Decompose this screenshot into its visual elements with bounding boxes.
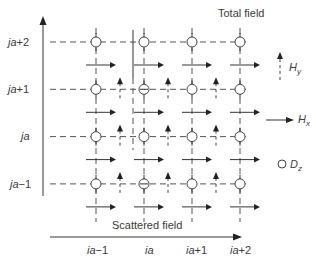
x-label-ia-plus-1: ia+1 — [186, 244, 207, 256]
hx-arrow-icon — [158, 62, 164, 68]
hx-arrow-icon — [254, 109, 260, 115]
dz-node-circle — [91, 132, 101, 142]
dz-node-circle — [235, 84, 245, 94]
legend-item-hy: Hy — [277, 52, 302, 80]
hx-arrow-icon — [110, 157, 116, 163]
legend-label-dz: Dz — [290, 158, 302, 173]
dz-node-circle — [235, 37, 245, 47]
field-components-layer — [86, 33, 260, 210]
hx-arrow-icon — [254, 62, 260, 68]
dz-circle-icon — [278, 160, 286, 168]
y-label-ja-plus-1: ja+1 — [6, 83, 29, 95]
dz-node-circle — [235, 132, 245, 142]
hx-arrow-icon — [110, 204, 116, 210]
dz-node-circle — [91, 179, 101, 189]
dz-node-circle — [187, 132, 197, 142]
y-axis-arrow-icon — [40, 16, 47, 25]
y-label-ja-plus-2: ja+2 — [6, 36, 29, 48]
hy-arrow-icon — [117, 77, 123, 84]
legend-label-hx: Hx — [298, 113, 311, 128]
x-axis-arrow-icon — [233, 234, 242, 241]
hx-arrow-icon — [206, 157, 212, 163]
hx-arrow-icon — [206, 62, 212, 68]
hx-arrow-icon — [110, 62, 116, 68]
dz-node-circle — [139, 37, 149, 47]
grid-layer — [50, 28, 250, 222]
hx-arrow-icon — [286, 117, 294, 123]
y-label-ja-minus-1: ja−1 — [8, 178, 31, 190]
hx-arrow-icon — [158, 109, 164, 115]
hy-arrow-icon — [213, 77, 219, 84]
hy-arrow-icon — [213, 125, 219, 132]
legend-item-dz: Dz — [278, 158, 302, 173]
hx-arrow-icon — [254, 157, 260, 163]
legend-label-hy: Hy — [289, 61, 302, 76]
x-label-ia-plus-2: ia+2 — [230, 244, 251, 256]
hy-arrow-icon — [117, 125, 123, 132]
hy-arrow-icon — [165, 77, 171, 84]
x-label-ia-minus-1: ia−1 — [87, 244, 108, 256]
hx-arrow-icon — [254, 204, 260, 210]
hy-arrow-icon — [277, 52, 283, 59]
x-axis — [50, 234, 242, 241]
dz-node-circle — [91, 84, 101, 94]
y-label-ja: ja — [19, 130, 30, 142]
legend: Hy Hx Dz — [266, 52, 311, 173]
hy-arrow-icon — [165, 172, 171, 179]
total-field-label: Total field — [218, 7, 264, 19]
scattered-field-label: Scattered field — [112, 219, 182, 231]
dz-node-circle — [91, 37, 101, 47]
dz-node-circle — [235, 179, 245, 189]
hx-arrow-icon — [158, 157, 164, 163]
dz-node-circle — [139, 132, 149, 142]
hx-arrow-icon — [110, 109, 116, 115]
dz-node-circle — [187, 37, 197, 47]
hy-arrow-icon — [165, 125, 171, 132]
hx-arrow-icon — [206, 109, 212, 115]
dz-node-circle — [187, 179, 197, 189]
y-axis — [40, 16, 47, 196]
fdtd-grid-diagram: Total field Scattered field ja+2 ja+1 ja… — [0, 0, 316, 263]
x-label-ia: ia — [145, 244, 154, 256]
hx-arrow-icon — [206, 204, 212, 210]
hy-arrow-icon — [213, 172, 219, 179]
hx-arrow-icon — [158, 204, 164, 210]
legend-item-hx: Hx — [266, 113, 311, 128]
hy-arrow-icon — [117, 172, 123, 179]
dz-node-circle — [187, 84, 197, 94]
